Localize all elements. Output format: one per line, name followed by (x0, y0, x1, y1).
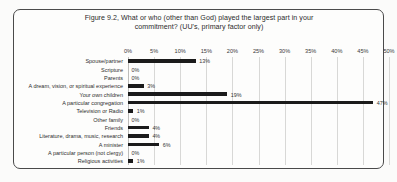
bar-value-label: 4% (152, 132, 160, 140)
bar-rows: Spouse/partner13%Scripture0%Parents0%A d… (128, 57, 389, 165)
bar (128, 59, 196, 63)
bar (128, 109, 133, 113)
x-tick-label: 15% (201, 48, 212, 54)
category-label: Parents (104, 74, 123, 82)
bar-value-label: 6% (163, 141, 171, 149)
bar (128, 92, 227, 96)
bar-row: Friends4% (128, 124, 389, 132)
category-label: Religious activities (78, 157, 123, 165)
bar-row: Other family0% (128, 115, 389, 123)
x-tick-label: 0% (124, 48, 132, 54)
category-label: Television or Radio (77, 107, 123, 115)
bar-row: A particular congregation47% (128, 99, 389, 107)
x-tick-label: 45% (357, 48, 368, 54)
bar (128, 159, 133, 163)
category-label: Scripture (101, 66, 123, 74)
bar-value-label: 0% (132, 74, 140, 82)
bar-value-label: 13% (199, 57, 210, 65)
chart-title-line-1: Figure 9.2, What or who (other than God)… (44, 14, 354, 23)
x-tick-label: 5% (150, 48, 158, 54)
bar-row: A minister6% (128, 141, 389, 149)
bar-value-label: 0% (132, 149, 140, 157)
x-tick-label: 25% (253, 48, 264, 54)
x-tick-label: 35% (305, 48, 316, 54)
category-label: Other family (93, 116, 123, 124)
bar-row: Spouse/partner13% (128, 57, 389, 65)
bar (128, 126, 149, 130)
chart-title: Figure 9.2, What or who (other than God)… (44, 14, 354, 32)
category-label: A particular person (not clergy) (48, 149, 123, 157)
bar (128, 134, 149, 138)
category-label: A particular congregation (62, 99, 123, 107)
chart-title-line-2: commitment? (UU's, primary factor only) (44, 23, 354, 32)
x-tick-label: 20% (227, 48, 238, 54)
bar-value-label: 47% (377, 99, 388, 107)
bar (128, 84, 144, 88)
x-tick-label: 10% (175, 48, 186, 54)
bar-row: A particular person (not clergy)0% (128, 149, 389, 157)
bar-value-label: 4% (152, 124, 160, 132)
plot-area: Spouse/partner13%Scripture0%Parents0%A d… (128, 57, 389, 165)
bar-row: Television or Radio1% (128, 107, 389, 115)
bar-value-label: 0% (132, 116, 140, 124)
category-label: A dream, vision, or spiritual experience (29, 82, 123, 90)
chart-frame: Figure 9.2, What or who (other than God)… (13, 9, 384, 169)
bar-row: Religious activities1% (128, 157, 389, 165)
bar-value-label: 1% (137, 107, 145, 115)
bar-row: Parents0% (128, 74, 389, 82)
bar (128, 143, 159, 147)
bar (128, 101, 373, 105)
bar-row: Scripture0% (128, 65, 389, 73)
x-tick-label: 40% (331, 48, 342, 54)
category-label: A minister (99, 141, 123, 149)
bar-value-label: 3% (147, 82, 155, 90)
bar-value-label: 1% (137, 157, 145, 165)
bar-row: Your own children19% (128, 90, 389, 98)
bar-value-label: 19% (231, 91, 242, 99)
category-label: Literature, drama, music, research (39, 132, 123, 140)
x-tick-label: 30% (279, 48, 290, 54)
category-label: Spouse/partner (85, 57, 123, 65)
category-label: Your own children (79, 91, 123, 99)
x-tick-label: 50% (383, 48, 394, 54)
x-axis-tick-labels: 0%5%10%15%20%25%30%35%40%45%50% (128, 48, 389, 57)
bar-value-label: 0% (132, 66, 140, 74)
bar-row: Literature, drama, music, research4% (128, 132, 389, 140)
bar-row: A dream, vision, or spiritual experience… (128, 82, 389, 90)
category-label: Friends (105, 124, 123, 132)
